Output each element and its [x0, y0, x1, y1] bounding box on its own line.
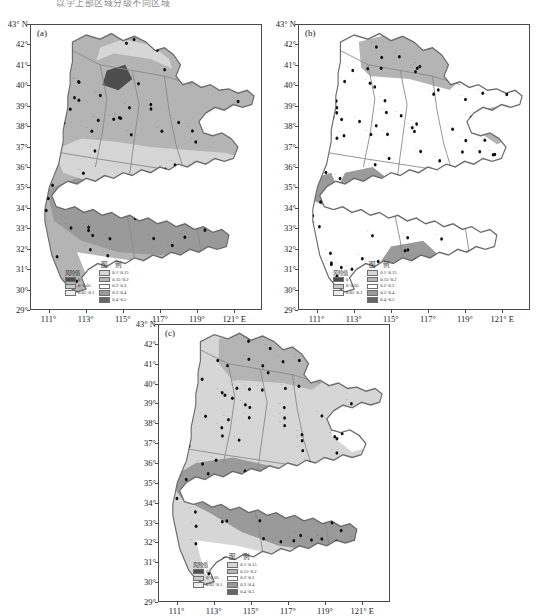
station-marker: [416, 67, 419, 71]
station-label: ··: [364, 76, 366, 81]
station-marker: [183, 235, 186, 239]
y-axis-tick-mark: [295, 147, 298, 148]
station-marker: [133, 38, 136, 42]
station-marker: [418, 65, 421, 69]
y-axis-tick-mark: [295, 24, 298, 25]
station-marker: [325, 519, 328, 522]
legend-label: 0: [78, 277, 80, 283]
station-marker: [53, 48, 56, 52]
panel-a: (a) ····································…: [0, 18, 268, 318]
station-marker: [458, 35, 461, 39]
station-label: ··: [179, 249, 181, 254]
y-axis-tick-mark: [27, 65, 30, 66]
station-marker: [220, 426, 223, 429]
legend-swatch: [227, 576, 238, 581]
station-label: ··: [148, 232, 150, 237]
station-label: ··: [305, 534, 307, 538]
station-label: ··: [39, 148, 41, 153]
station-marker: [450, 210, 453, 214]
station-label: ··: [108, 112, 110, 117]
station-marker: [343, 80, 346, 84]
station-marker: [440, 237, 443, 241]
station-label: ··: [86, 124, 88, 129]
station-marker: [185, 478, 188, 481]
station-marker: [163, 68, 166, 72]
station-label: ··: [320, 166, 322, 171]
legend-label: 0.2~0.3: [112, 283, 126, 289]
legend-label: 0.15~0.2: [112, 277, 128, 283]
station-marker: [84, 191, 87, 195]
station-marker: [177, 121, 180, 125]
x-axis-tick-label: 113°: [206, 606, 222, 616]
station-label: ··: [408, 125, 410, 130]
legend-item: 0.2~0.3: [227, 575, 256, 581]
station-label: ··: [504, 128, 506, 133]
station-marker: [398, 55, 401, 59]
station-marker: [345, 487, 348, 490]
y-axis-tick-label: 33°: [0, 223, 28, 233]
station-label: ··: [330, 94, 332, 99]
station-label: ··: [40, 203, 42, 208]
y-axis-tick-mark: [155, 344, 158, 345]
station-marker: [188, 270, 191, 274]
station-marker: [338, 417, 341, 420]
x-axis-tick-mark: [197, 310, 198, 313]
station-label: ··: [216, 516, 218, 520]
station-marker: [485, 291, 488, 295]
station-marker: [201, 462, 204, 465]
y-axis-tick-mark: [295, 269, 298, 270]
station-label: ··: [310, 502, 312, 506]
station-marker: [464, 223, 467, 227]
station-label: ··: [369, 158, 371, 163]
station-marker: [367, 415, 370, 418]
legend-swatch: [99, 270, 110, 275]
y-axis-tick-mark: [27, 167, 30, 168]
station-label: ··: [113, 111, 115, 116]
legend-item: 0.15~0.2: [99, 277, 128, 283]
station-marker: [283, 406, 286, 409]
station-marker: [415, 122, 418, 126]
station-marker: [196, 484, 199, 487]
legend-label: 0.2~0.3: [240, 575, 254, 581]
station-marker: [358, 120, 361, 124]
legend-label: 0: [346, 277, 348, 283]
station-label: ··: [481, 162, 483, 167]
legend-swatch: [65, 277, 76, 282]
station-label: ··: [186, 124, 188, 129]
station-marker: [319, 200, 322, 204]
station-label: ··: [125, 128, 127, 133]
station-label: ··: [126, 177, 128, 182]
station-marker: [335, 111, 338, 115]
station-marker: [171, 265, 174, 269]
y-axis-tick-mark: [27, 24, 30, 25]
station-label: ··: [288, 535, 290, 539]
station-marker: [238, 283, 241, 287]
station-label: ··: [330, 535, 332, 539]
x-axis-tick-label: 115°: [243, 606, 259, 616]
station-marker: [59, 42, 62, 46]
y-axis-tick-mark: [27, 85, 30, 86]
station-label: ··: [402, 243, 404, 248]
station-label: ··: [313, 282, 315, 287]
station-label: ··: [432, 83, 434, 88]
station-label: ··: [479, 62, 481, 67]
station-marker: [284, 387, 287, 390]
station-marker: [226, 364, 229, 367]
station-marker: [112, 117, 115, 121]
y-axis-tick-label: 40°: [126, 379, 156, 389]
station-marker: [106, 254, 109, 258]
station-label: ··: [401, 169, 403, 174]
station-label: ··: [406, 121, 408, 126]
station-label: ··: [179, 230, 181, 235]
station-label: ··: [169, 268, 171, 273]
station-label: ··: [297, 445, 299, 449]
station-label: ··: [104, 232, 106, 237]
legend-column-right: 0.1~0.150.15~0.20.2~0.30.3~0.40.4~0.5: [367, 270, 396, 303]
station-label: ··: [345, 398, 347, 402]
station-label: ··: [353, 514, 355, 518]
station-label: ··: [59, 89, 61, 94]
legend-label: 0.4~0.5: [112, 297, 126, 303]
station-label: ··: [366, 229, 368, 234]
station-marker: [495, 68, 498, 72]
station-marker: [279, 540, 282, 543]
